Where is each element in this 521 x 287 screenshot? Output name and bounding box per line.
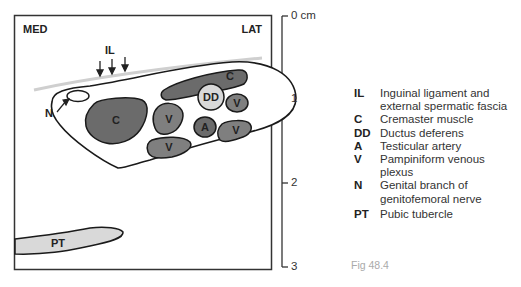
legend-abbr: A (354, 140, 380, 153)
label-c-small: C (226, 70, 234, 82)
label-pt: PT (51, 237, 65, 249)
legend-abbr: N (354, 179, 380, 205)
legend-desc: Pubic tubercle (380, 208, 453, 221)
scale-bar (282, 16, 288, 267)
label-v-left: V (165, 113, 173, 125)
label-v-right-lower: V (232, 124, 240, 136)
nerve-structure (67, 91, 89, 102)
legend-abbr: C (354, 113, 380, 126)
label-a: A (201, 121, 209, 133)
label-n: N (45, 107, 53, 119)
legend-desc: Genital branch of genitofemoral nerve (380, 179, 482, 205)
legend-item: VPampiniform venous plexus (354, 153, 521, 179)
legend-item: ATesticular artery (354, 140, 521, 153)
label-v-bottom: V (165, 141, 173, 153)
scale-tick-0: 0 cm (291, 9, 316, 21)
scale-tick-1: 1 (291, 92, 297, 104)
legend-item: DDDuctus deferens (354, 127, 521, 140)
legend-item: CCremaster muscle (354, 113, 521, 126)
legend-desc: Pampiniform venous plexus (380, 153, 521, 179)
legend-desc: Testicular artery (380, 140, 461, 153)
legend-item: NGenital branch of genitofemoral nerve (354, 179, 521, 205)
legend-abbr: IL (354, 87, 380, 113)
label-dd: DD (203, 91, 219, 103)
scale-tick-2: 2 (291, 176, 297, 188)
legend-item: ILInguinal ligament and external spermat… (354, 87, 521, 113)
legend-abbr: V (354, 153, 380, 179)
legend: ILInguinal ligament and external spermat… (354, 87, 521, 221)
legend-item: PTPubic tubercle (354, 208, 521, 221)
label-v-right-upper: V (233, 97, 241, 109)
scale-tick-3: 3 (291, 260, 297, 272)
label-il: IL (105, 44, 115, 56)
legend-desc: Ductus deferens (380, 127, 464, 140)
label-med: MED (23, 23, 48, 35)
label-lat: LAT (241, 23, 262, 35)
legend-desc: Inguinal ligament and external spermatic… (380, 87, 507, 113)
legend-abbr: DD (354, 127, 380, 140)
legend-abbr: PT (354, 208, 380, 221)
legend-desc: Cremaster muscle (380, 113, 473, 126)
label-c-large: C (112, 114, 120, 126)
figure-label: Fig 48.4 (351, 259, 389, 271)
